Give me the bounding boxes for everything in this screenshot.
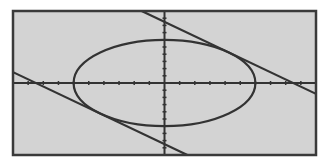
calculator-graph-screen [0,0,328,168]
